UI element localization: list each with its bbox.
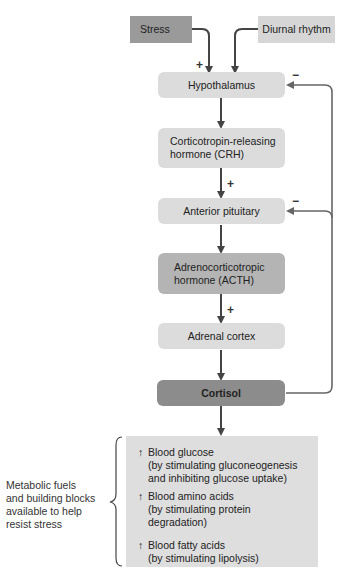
cortisol-box: Cortisol <box>157 380 285 406</box>
crh-box: Corticotropin-releasing hormone (CRH) <box>158 128 285 168</box>
side-label-line: and building blocks <box>6 492 95 505</box>
effect-blood-glucose: ↑ Blood glucose (by stimulating gluconeo… <box>138 446 310 485</box>
acth-label-line2: hormone (ACTH) <box>174 274 264 287</box>
side-label-line: Metabolic fuels <box>6 479 95 492</box>
anterior-pituitary-box: Anterior pituitary <box>158 198 285 224</box>
effect-detail: and inhibiting glucose uptake) <box>148 472 310 485</box>
acth-label-line1: Adrenocorticotropic <box>174 261 264 274</box>
adrenal-cortex-box: Adrenal cortex <box>158 323 285 349</box>
crh-label-line2: hormone (CRH) <box>170 148 276 161</box>
effect-detail: (by stimulating gluconeogenesis <box>148 459 310 472</box>
up-arrow-icon: ↑ <box>138 446 143 459</box>
crh-label-line1: Corticotropin-releasing <box>170 135 276 148</box>
effect-blood-amino-acids: ↑ Blood amino acids (by stimulating prot… <box>138 490 310 529</box>
stress-label: Stress <box>140 23 170 36</box>
effect-title: Blood glucose <box>148 446 310 459</box>
stress-input-box: Stress <box>130 16 192 43</box>
acth-plus-sign: + <box>227 303 234 317</box>
effect-blood-fatty-acids: ↑ Blood fatty acids (by stimulating lipo… <box>138 539 310 565</box>
adrenal-cortex-label: Adrenal cortex <box>188 330 256 343</box>
anterior-pituitary-label: Anterior pituitary <box>183 205 259 218</box>
hypothalamus-box: Hypothalamus <box>158 72 285 98</box>
effect-detail: (by stimulating lipolysis) <box>148 552 310 565</box>
cortisol-label: Cortisol <box>201 387 241 400</box>
effect-detail: (by stimulating protein degradation) <box>148 503 310 529</box>
hypothalamus-feedback-minus: − <box>292 68 299 82</box>
up-arrow-icon: ↑ <box>138 539 143 552</box>
metabolic-fuels-label: Metabolic fuels and building blocks avai… <box>6 479 95 531</box>
crh-plus-sign: + <box>227 177 234 191</box>
diurnal-rhythm-input-box: Diurnal rhythm <box>258 16 335 43</box>
side-label-line: available to help <box>6 505 95 518</box>
pituitary-feedback-minus: − <box>292 194 299 208</box>
effect-title: Blood fatty acids <box>148 539 310 552</box>
effects-box: ↑ Blood glucose (by stimulating gluconeo… <box>126 436 318 567</box>
hypothalamus-label: Hypothalamus <box>188 79 255 92</box>
effect-title: Blood amino acids <box>148 490 310 503</box>
diurnal-rhythm-label: Diurnal rhythm <box>262 23 330 36</box>
stress-plus-sign: + <box>196 58 203 72</box>
up-arrow-icon: ↑ <box>138 490 143 503</box>
side-label-line: resist stress <box>6 518 95 531</box>
acth-box: Adrenocorticotropic hormone (ACTH) <box>158 253 285 294</box>
